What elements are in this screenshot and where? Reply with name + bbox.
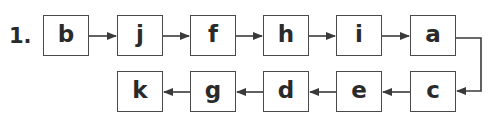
arrow-a-c	[456, 38, 481, 91]
connector-arrows	[0, 0, 490, 120]
